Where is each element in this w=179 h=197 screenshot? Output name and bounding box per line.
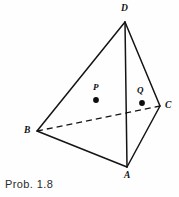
tetrahedron-diagram bbox=[0, 0, 179, 197]
point-label-q: Q bbox=[137, 86, 144, 95]
edge-ca bbox=[127, 106, 160, 167]
vertex-label-b: B bbox=[24, 126, 30, 136]
point-p-dot bbox=[93, 97, 99, 103]
edge-da bbox=[125, 22, 127, 167]
vertex-label-d: D bbox=[121, 4, 128, 14]
edge-bc-hidden bbox=[37, 106, 160, 131]
point-q-dot bbox=[139, 100, 145, 106]
figure-caption: Prob. 1.8 bbox=[5, 178, 53, 190]
vertex-label-c: C bbox=[165, 101, 171, 111]
edge-db bbox=[37, 22, 125, 131]
point-label-p: P bbox=[93, 83, 99, 92]
interior-point-group bbox=[93, 97, 145, 106]
edge-ba bbox=[37, 131, 127, 167]
vertex-label-a: A bbox=[124, 171, 130, 181]
figure-container: D B C A P Q Prob. 1.8 bbox=[0, 0, 179, 197]
